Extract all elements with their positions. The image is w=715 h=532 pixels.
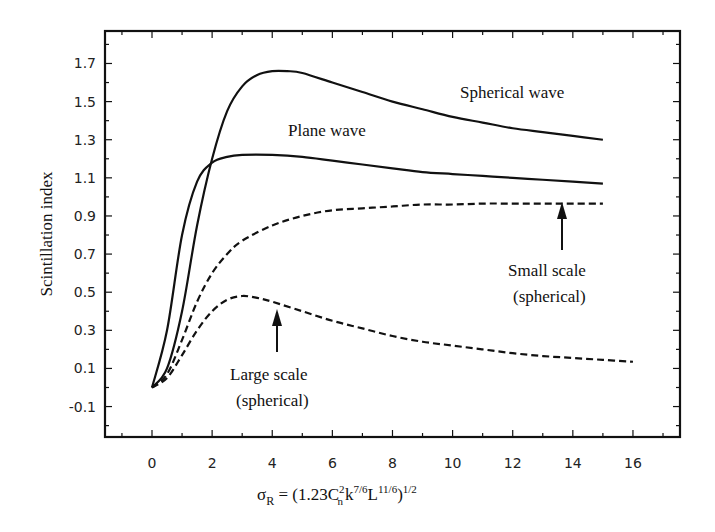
annotation-small-scale-line2: (spherical) bbox=[513, 287, 586, 306]
x-tick-label: 10 bbox=[444, 455, 462, 471]
annotation-plane-wave: Plane wave bbox=[288, 121, 366, 140]
series-large-scale-spherical bbox=[152, 296, 633, 388]
y-tick-label: 1.5 bbox=[74, 94, 96, 110]
x-label-L-exp: 11/6 bbox=[378, 483, 398, 495]
x-tick-label: 8 bbox=[388, 455, 397, 471]
x-tick-label: 6 bbox=[328, 455, 337, 471]
x-axis-label: σR = (1.23C2nk7/6L11/6)1/2 bbox=[257, 483, 417, 508]
y-tick-label: 1.3 bbox=[74, 132, 96, 148]
x-label-subn: n bbox=[338, 495, 344, 507]
x-tick-label: 14 bbox=[564, 455, 582, 471]
x-label-close-exp: 1/2 bbox=[403, 483, 417, 495]
x-tick-label: 16 bbox=[624, 455, 642, 471]
x-label-sup2: 2 bbox=[339, 483, 345, 495]
x-tick-label: 12 bbox=[504, 455, 522, 471]
y-tick-label: 1.7 bbox=[74, 55, 96, 71]
y-tick-label: 1.1 bbox=[74, 170, 96, 186]
y-tick-label: 0.1 bbox=[74, 360, 96, 376]
arrow-large-scale bbox=[272, 309, 282, 352]
x-tick-label: 4 bbox=[268, 455, 277, 471]
annotation-large-scale-line1: Large scale bbox=[230, 365, 308, 384]
x-label-k-exp: 7/6 bbox=[354, 483, 369, 495]
x-label-eq: = (1.23C bbox=[274, 485, 339, 504]
y-axis-label: Scintillation index bbox=[37, 171, 56, 297]
data-series bbox=[152, 71, 633, 388]
y-tick-label: 0.9 bbox=[74, 208, 96, 224]
x-label-sigma: σ bbox=[257, 485, 266, 504]
y-tick-label: 0.3 bbox=[74, 322, 96, 338]
scintillation-chart: 0246810121416-0.10.10.30.50.70.91.11.31.… bbox=[0, 0, 715, 532]
annotation-spherical-wave: Spherical wave bbox=[460, 83, 564, 102]
x-label-L: L bbox=[368, 485, 378, 504]
axis-ticks bbox=[105, 31, 680, 437]
annotation-large-scale-line2: (spherical) bbox=[236, 391, 309, 410]
annotation-small-scale-line1: Small scale bbox=[508, 261, 586, 280]
y-tick-label: -0.1 bbox=[69, 399, 96, 415]
x-label-subscript: R bbox=[266, 494, 274, 508]
arrow-small-scale bbox=[557, 202, 567, 250]
y-tick-label: 0.7 bbox=[74, 246, 96, 262]
plot-frame bbox=[105, 31, 680, 437]
x-tick-label: 0 bbox=[148, 455, 157, 471]
series-spherical-wave bbox=[152, 71, 603, 388]
y-tick-label: 0.5 bbox=[74, 284, 96, 300]
x-tick-label: 2 bbox=[208, 455, 217, 471]
